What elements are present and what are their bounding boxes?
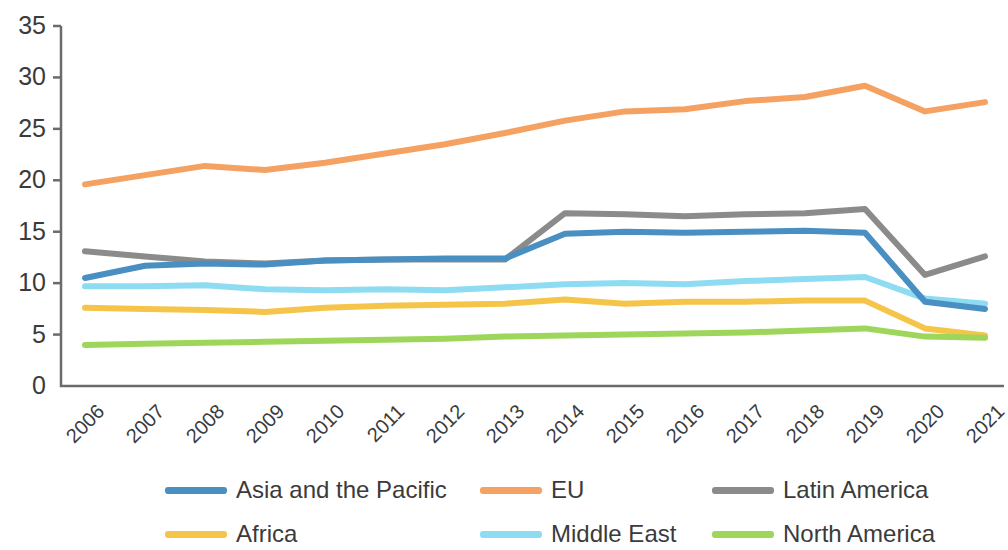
y-axis-tick-label: 30 bbox=[0, 64, 46, 89]
legend-color-swatch bbox=[712, 487, 774, 494]
series-lines bbox=[85, 86, 985, 345]
y-axis-tick-label: 20 bbox=[0, 167, 46, 192]
legend-label: Asia and the Pacific bbox=[236, 478, 447, 502]
plot-area bbox=[0, 0, 1008, 470]
y-axis-tick-label: 25 bbox=[0, 116, 46, 141]
legend-color-swatch bbox=[712, 531, 774, 538]
legend-label: Latin America bbox=[783, 478, 928, 502]
legend-label: EU bbox=[551, 478, 584, 502]
axis-group bbox=[53, 26, 1004, 386]
y-axis-tick-label: 10 bbox=[0, 270, 46, 295]
legend-color-swatch bbox=[480, 487, 542, 494]
legend-label: Africa bbox=[236, 522, 297, 546]
legend-label: North America bbox=[783, 522, 935, 546]
y-axis-tick-label: 15 bbox=[0, 219, 46, 244]
legend-item-latin-america[interactable]: Latin America bbox=[712, 478, 928, 502]
axis-spine bbox=[61, 26, 1004, 386]
line-chart: 05101520253035 2006200720082009201020112… bbox=[0, 0, 1008, 550]
legend-color-swatch bbox=[165, 531, 227, 538]
legend-item-asia-and-the-pacific[interactable]: Asia and the Pacific bbox=[165, 478, 447, 502]
series-line-asia-and-the-pacific bbox=[85, 231, 985, 309]
legend-label: Middle East bbox=[551, 522, 676, 546]
y-axis-tick-label: 0 bbox=[0, 373, 46, 398]
legend-item-north-america[interactable]: North America bbox=[712, 522, 935, 546]
legend-item-africa[interactable]: Africa bbox=[165, 522, 297, 546]
y-axis-tick-label: 5 bbox=[0, 322, 46, 347]
series-line-eu bbox=[85, 86, 985, 185]
legend-color-swatch bbox=[480, 531, 542, 538]
y-axis-tick-label: 35 bbox=[0, 13, 46, 38]
legend-item-middle-east[interactable]: Middle East bbox=[480, 522, 676, 546]
legend-item-eu[interactable]: EU bbox=[480, 478, 584, 502]
series-line-north-america bbox=[85, 328, 985, 345]
legend-color-swatch bbox=[165, 487, 227, 494]
chart-legend: Asia and the PacificEULatin AmericaAfric… bbox=[0, 472, 1008, 550]
